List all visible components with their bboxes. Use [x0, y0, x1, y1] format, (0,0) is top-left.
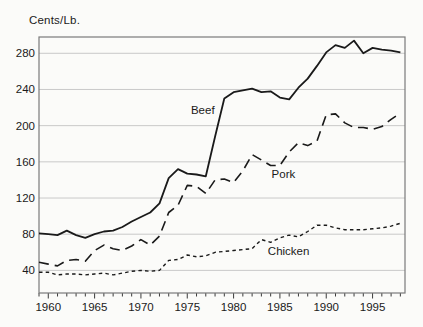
y-tick-label-40: 40: [22, 264, 35, 276]
y-tick-label-200: 200: [16, 120, 35, 132]
plot-border: [39, 37, 405, 293]
chart-canvas: 4080120160200240280196019651970197519801…: [0, 0, 423, 327]
y-tick-label-80: 80: [22, 228, 35, 240]
x-tick-label-1970: 1970: [128, 301, 154, 313]
x-tick-label-1975: 1975: [174, 301, 200, 313]
x-tick-label-1990: 1990: [313, 301, 339, 313]
x-tick-label-1960: 1960: [35, 301, 61, 313]
series-line-beef: [39, 41, 400, 238]
y-tick-label-280: 280: [16, 47, 35, 59]
y-tick-label-240: 240: [16, 83, 35, 95]
series-line-pork: [39, 113, 400, 266]
series-line-chicken: [39, 223, 400, 275]
x-tick-label-1995: 1995: [360, 301, 386, 313]
series-label-beef: Beef: [191, 104, 215, 116]
meat-price-chart: Cents/Lb. 408012016020024028019601965197…: [0, 0, 423, 327]
x-tick-label-1965: 1965: [82, 301, 108, 313]
y-tick-label-120: 120: [16, 192, 35, 204]
series-label-chicken: Chicken: [268, 245, 310, 257]
series-label-pork: Pork: [272, 168, 296, 180]
y-tick-label-160: 160: [16, 156, 35, 168]
x-tick-label-1985: 1985: [267, 301, 293, 313]
x-tick-label-1980: 1980: [221, 301, 247, 313]
